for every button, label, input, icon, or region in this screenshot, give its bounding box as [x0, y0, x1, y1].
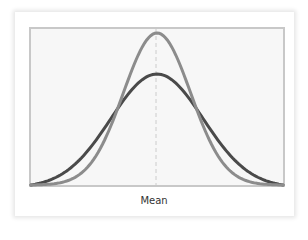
plot-frame [30, 28, 284, 186]
distribution-plot [29, 27, 285, 187]
x-axis-label: Mean [0, 195, 308, 206]
